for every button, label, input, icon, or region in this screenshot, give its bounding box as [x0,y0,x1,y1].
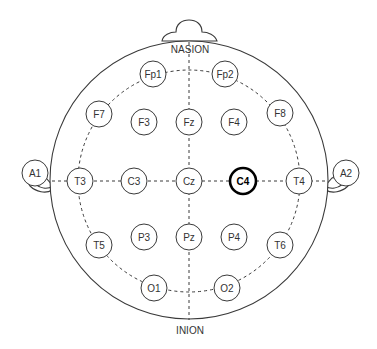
electrode-f7: F7 [86,101,112,127]
electrode-label: A2 [340,168,353,179]
electrode-t6: T6 [267,232,293,258]
electrode-label: O2 [220,283,234,294]
electrode-label: C3 [128,176,141,187]
electrode-fp2: Fp2 [212,61,238,87]
electrode-t3: T3 [67,168,93,194]
electrode-f4: F4 [221,109,247,135]
electrode-p3: P3 [131,224,157,250]
electrode-label: P4 [228,232,241,243]
electrode-label: F8 [274,108,286,119]
electrode-fp1: Fp1 [140,61,166,87]
electrode-pz: Pz [176,224,202,250]
electrode-a2: A2 [333,160,359,186]
electrode-t5: T5 [86,232,112,258]
electrode-label: Fp1 [144,69,162,80]
electrode-label: F3 [138,117,150,128]
electrode-label: F7 [93,109,105,120]
electrode-label: Pz [183,232,195,243]
electrode-label: T6 [274,240,286,251]
electrode-f3: F3 [131,109,157,135]
electrode-t4: T4 [286,168,312,194]
electrode-label: T5 [93,240,105,251]
electrode-c4: C4 [230,168,256,194]
nose-outline [162,20,217,41]
electrode-label: C4 [237,176,250,187]
electrode-fz: Fz [176,109,202,135]
electrode-label: A1 [29,168,42,179]
electrode-label: O1 [147,283,161,294]
electrode-p4: P4 [221,224,247,250]
electrode-o1: O1 [141,275,167,301]
electrode-cz: Cz [176,168,202,194]
electrode-o2: O2 [214,275,240,301]
inion-label: INION [176,325,204,336]
electrode-label: T4 [293,176,305,187]
electrode-label: Fz [183,117,194,128]
electrode-label: Fp2 [216,69,234,80]
electrode-label: F4 [228,117,240,128]
eeg-10-20-diagram: NASION INION Fp1Fp2F7F3FzF4F8A1T3C3CzC4T… [0,0,377,349]
electrode-a1: A1 [22,160,48,186]
electrode-f8: F8 [267,100,293,126]
electrode-label: T3 [74,176,86,187]
electrode-label: Cz [183,176,195,187]
electrode-c3: C3 [121,168,147,194]
nasion-label: NASION [171,44,209,55]
electrode-label: P3 [138,232,151,243]
